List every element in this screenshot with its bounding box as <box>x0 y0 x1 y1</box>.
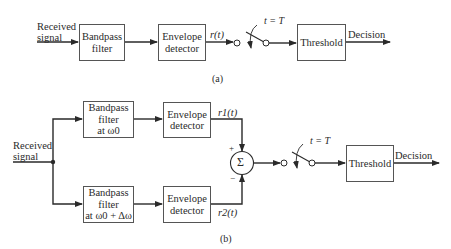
switch-label-b: t = T <box>310 135 330 146</box>
minus-sign: − <box>230 173 235 184</box>
received-signal-label-b: Received signal <box>13 140 52 162</box>
plus-sign: + <box>229 143 234 154</box>
switch-b-lever <box>292 152 310 162</box>
envelope-detector-upper: Envelope detector <box>163 102 211 138</box>
threshold-block-b: Threshold <box>346 145 394 182</box>
received-signal-label-a: Received signal <box>37 21 76 43</box>
bandpass-filter-upper: Bandpass filter at ω0 <box>83 101 134 138</box>
caption-a: (a) <box>212 73 223 84</box>
summer-sigma-symbol: Σ <box>237 155 244 170</box>
switch-a-lever <box>246 32 264 42</box>
signal-label-r2: r2(t) <box>218 207 237 218</box>
bandpass-filter-block-a: Bandpass filter <box>79 24 125 61</box>
bandpass-filter-lower: Bandpass filter at ω0 + Δω <box>83 186 134 223</box>
envelope-detector-block-a: Envelope detector <box>158 24 206 61</box>
envelope-detector-lower: Envelope detector <box>163 186 211 223</box>
signal-label-r1: r1(t) <box>218 107 237 118</box>
switch-label-a: t = T <box>264 15 284 26</box>
decision-label-b: Decision <box>395 150 432 161</box>
threshold-block-a: Threshold <box>297 24 346 61</box>
decision-label-a: Decision <box>348 29 385 40</box>
caption-b: (b) <box>220 233 232 244</box>
signal-label-r-t: r(t) <box>210 29 224 40</box>
